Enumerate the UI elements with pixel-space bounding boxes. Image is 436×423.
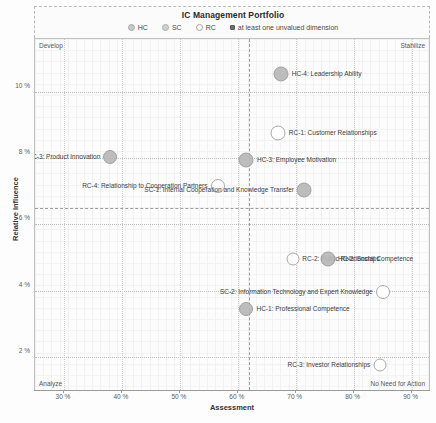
- data-point-label-hc-2: HC-2: Social Competence: [338, 256, 413, 263]
- x-tick-mark: [295, 390, 296, 393]
- legend-item-sc[interactable]: SC: [162, 24, 182, 31]
- x-tick-label: 40 %: [113, 393, 128, 400]
- data-point-sc-2[interactable]: [376, 285, 390, 299]
- data-point-rc-1[interactable]: [271, 126, 286, 141]
- legend-item-rc[interactable]: RC: [196, 24, 216, 31]
- quadrant-label-analyze: Analyze: [39, 380, 62, 387]
- y-axis: Relative Influence 2 %4 %6 %8 %10 %: [0, 32, 34, 385]
- legend-marker-icon: [230, 25, 235, 30]
- x-tick-mark: [179, 390, 180, 393]
- gridline-vertical: [238, 39, 239, 390]
- gridline-vertical: [412, 39, 413, 390]
- x-tick-label: 50 %: [171, 393, 186, 400]
- y-tick-label: 2 %: [19, 346, 30, 353]
- plot-area: Develop Stabilize Analyze No Need for Ac…: [34, 38, 430, 391]
- gridline-horizontal: [35, 92, 429, 93]
- gridline-horizontal: [35, 357, 429, 358]
- quadrant-label-stabilize: Stabilize: [400, 42, 425, 49]
- data-point-label-hc-1: HC-1: Professional Competence: [256, 306, 349, 313]
- x-tick-mark: [63, 390, 64, 393]
- data-point-rc-3[interactable]: [373, 359, 386, 372]
- data-point-label-sc-1: SC-1: Internal Cooperation and Knowledge…: [144, 186, 294, 193]
- chart-legend: HCSCRCat least one unvalued dimension: [35, 24, 431, 31]
- y-tick-label: 6 %: [19, 214, 30, 221]
- y-tick-label: 8 %: [19, 148, 30, 155]
- data-point-label-rc-1: RC-1: Customer Relationships: [289, 130, 377, 137]
- x-tick-label: 80 %: [345, 393, 360, 400]
- y-tick-label: 10 %: [15, 81, 30, 88]
- data-point-rc-2[interactable]: [286, 253, 299, 266]
- x-tick-mark: [121, 390, 122, 393]
- legend-item-label: at least one unvalued dimension: [238, 24, 338, 31]
- legend-marker-icon: [162, 24, 169, 31]
- gridline-vertical: [122, 39, 123, 390]
- data-point-label-sc-3: SC-3: Product Innovation: [34, 153, 100, 160]
- data-point-label-hc-4: HC-4: Leadership Ability: [292, 71, 362, 78]
- x-tick-mark: [353, 390, 354, 393]
- gridline-vertical: [296, 39, 297, 390]
- x-tick-label: 60 %: [229, 393, 244, 400]
- data-point-label-rc-3: RC-3: Investor Relationships: [288, 362, 371, 369]
- data-point-hc-4[interactable]: [274, 66, 289, 81]
- legend-item-label: HC: [138, 24, 148, 31]
- data-point-sc-3[interactable]: [103, 150, 117, 164]
- data-point-hc-3[interactable]: [239, 152, 254, 167]
- quadrant-divider-vertical: [249, 39, 250, 390]
- chart-frame: IC Management Portfolio HCSCRCat least o…: [34, 6, 430, 391]
- x-tick-label: 30 %: [56, 393, 71, 400]
- gridline-horizontal: [35, 224, 429, 225]
- quadrant-divider-horizontal: [35, 208, 429, 209]
- chart-title: IC Management Portfolio: [35, 10, 431, 20]
- data-point-hc-1[interactable]: [239, 302, 253, 316]
- legend-item-unvalued[interactable]: at least one unvalued dimension: [230, 24, 338, 31]
- quadrant-label-develop: Develop: [39, 42, 63, 49]
- x-tick-mark: [411, 390, 412, 393]
- data-point-sc-1[interactable]: [297, 182, 312, 197]
- x-tick-label: 70 %: [287, 393, 302, 400]
- data-point-hc-2[interactable]: [320, 252, 335, 267]
- quadrant-label-no-need-for-action: No Need for Action: [370, 380, 425, 387]
- legend-marker-icon: [196, 24, 203, 31]
- data-point-label-sc-2: SC-2: Information Technology and Expert …: [220, 289, 373, 296]
- legend-item-label: RC: [206, 24, 216, 31]
- title-legend-band: IC Management Portfolio HCSCRCat least o…: [34, 6, 430, 38]
- legend-marker-icon: [128, 24, 135, 31]
- x-axis-title: Assessment: [34, 403, 430, 412]
- y-tick-label: 4 %: [19, 280, 30, 287]
- x-tick-mark: [237, 390, 238, 393]
- data-point-label-hc-3: HC-3: Employee Motivation: [257, 157, 336, 164]
- x-axis: Assessment 30 %40 %50 %60 %70 %80 %90 %: [34, 391, 430, 421]
- y-axis-title: Relative Influence: [11, 164, 20, 254]
- legend-item-label: SC: [172, 24, 182, 31]
- x-tick-label: 90 %: [403, 393, 418, 400]
- gridline-vertical: [354, 39, 355, 390]
- legend-item-hc[interactable]: HC: [128, 24, 148, 31]
- gridline-vertical: [64, 39, 65, 390]
- gridline-vertical: [180, 39, 181, 390]
- chart-root: IC Management Portfolio HCSCRCat least o…: [0, 0, 436, 423]
